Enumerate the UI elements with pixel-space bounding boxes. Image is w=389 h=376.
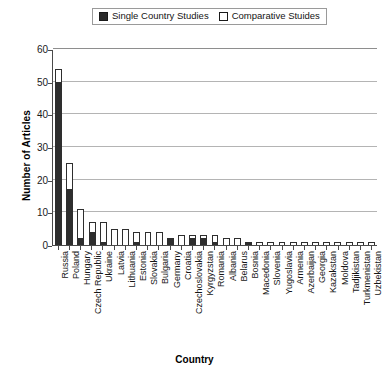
- bar-segment-comparative[interactable]: [156, 232, 163, 245]
- bar-segment-comparative[interactable]: [145, 232, 152, 245]
- bar-stack[interactable]: [223, 238, 230, 245]
- bar-stack[interactable]: [346, 242, 353, 245]
- bar-segment-comparative[interactable]: [66, 163, 73, 189]
- bar-segment-single-country[interactable]: [89, 232, 96, 245]
- bar-segment-comparative[interactable]: [290, 242, 297, 245]
- bar-slot[interactable]: [310, 50, 321, 245]
- bar-segment-comparative[interactable]: [89, 222, 96, 232]
- bar-stack[interactable]: [178, 235, 185, 245]
- bar-segment-comparative[interactable]: [346, 242, 353, 245]
- bar-slot[interactable]: [276, 50, 287, 245]
- bar-segment-comparative[interactable]: [122, 229, 129, 245]
- bar-segment-comparative[interactable]: [279, 242, 286, 245]
- bar-segment-single-country[interactable]: [133, 242, 140, 245]
- bar-slot[interactable]: [176, 50, 187, 245]
- bar-series-group: [53, 50, 377, 245]
- bar-segment-comparative[interactable]: [334, 242, 341, 245]
- bar-slot[interactable]: [288, 50, 299, 245]
- bar-slot[interactable]: [254, 50, 265, 245]
- bar-stack[interactable]: [267, 242, 274, 245]
- x-label-slot: Slovakia: [142, 251, 153, 351]
- bar-segment-comparative[interactable]: [256, 242, 263, 245]
- bar-slot[interactable]: [332, 50, 343, 245]
- bar-slot[interactable]: [154, 50, 165, 245]
- bar-slot[interactable]: [366, 50, 377, 245]
- x-label-slot: Russia: [52, 251, 63, 351]
- bar-segment-single-country[interactable]: [77, 238, 84, 245]
- bar-stack[interactable]: [212, 235, 219, 245]
- bar-segment-comparative[interactable]: [223, 238, 230, 245]
- bar-slot[interactable]: [299, 50, 310, 245]
- y-tick-mark-20: [48, 181, 52, 182]
- bar-segment-comparative[interactable]: [234, 238, 241, 245]
- bar-stack[interactable]: [122, 229, 129, 245]
- bar-slot[interactable]: [64, 50, 75, 245]
- x-tick-mark: [237, 246, 238, 250]
- bar-stack[interactable]: [66, 163, 73, 245]
- bar-segment-single-country[interactable]: [189, 238, 196, 245]
- bar-stack[interactable]: [200, 235, 207, 245]
- bar-segment-single-country[interactable]: [212, 242, 219, 245]
- bar-slot[interactable]: [142, 50, 153, 245]
- bar-slot[interactable]: [321, 50, 332, 245]
- bar-stack[interactable]: [145, 232, 152, 245]
- bar-segment-comparative[interactable]: [77, 209, 84, 238]
- bar-segment-comparative[interactable]: [133, 232, 140, 242]
- bar-stack[interactable]: [89, 222, 96, 245]
- bar-slot[interactable]: [165, 50, 176, 245]
- bar-segment-comparative[interactable]: [323, 242, 330, 245]
- bar-stack[interactable]: [189, 235, 196, 245]
- bar-segment-comparative[interactable]: [312, 242, 319, 245]
- bar-stack[interactable]: [245, 242, 252, 245]
- bar-segment-comparative[interactable]: [111, 229, 118, 245]
- bar-slot[interactable]: [355, 50, 366, 245]
- bar-segment-single-country[interactable]: [66, 189, 73, 245]
- bar-segment-single-country[interactable]: [167, 238, 174, 245]
- bar-stack[interactable]: [156, 232, 163, 245]
- bar-slot[interactable]: [243, 50, 254, 245]
- bar-segment-single-country[interactable]: [200, 238, 207, 245]
- bar-stack[interactable]: [357, 242, 364, 245]
- bar-stack[interactable]: [368, 242, 375, 245]
- bar-stack[interactable]: [167, 238, 174, 245]
- bar-slot[interactable]: [75, 50, 86, 245]
- bar-segment-comparative[interactable]: [55, 69, 62, 82]
- bar-stack[interactable]: [301, 242, 308, 245]
- bar-segment-comparative[interactable]: [178, 235, 185, 245]
- bar-slot[interactable]: [53, 50, 64, 245]
- bar-stack[interactable]: [111, 229, 118, 245]
- bar-segment-single-country[interactable]: [245, 242, 252, 245]
- bar-stack[interactable]: [55, 69, 62, 245]
- bar-segment-comparative[interactable]: [267, 242, 274, 245]
- bar-slot[interactable]: [209, 50, 220, 245]
- bar-stack[interactable]: [77, 209, 84, 245]
- bar-slot[interactable]: [109, 50, 120, 245]
- bar-segment-comparative[interactable]: [357, 242, 364, 245]
- bar-segment-single-country[interactable]: [100, 242, 107, 245]
- bar-stack[interactable]: [334, 242, 341, 245]
- bar-slot[interactable]: [120, 50, 131, 245]
- bar-segment-comparative[interactable]: [368, 242, 375, 245]
- bar-stack[interactable]: [234, 238, 241, 245]
- bar-slot[interactable]: [187, 50, 198, 245]
- bar-slot[interactable]: [265, 50, 276, 245]
- bar-slot[interactable]: [131, 50, 142, 245]
- bar-segment-single-country[interactable]: [55, 82, 62, 245]
- bar-stack[interactable]: [323, 242, 330, 245]
- bar-slot[interactable]: [198, 50, 209, 245]
- bar-stack[interactable]: [312, 242, 319, 245]
- bar-slot[interactable]: [98, 50, 109, 245]
- bar-slot[interactable]: [221, 50, 232, 245]
- bar-segment-comparative[interactable]: [100, 222, 107, 242]
- bar-slot[interactable]: [87, 50, 98, 245]
- bar-stack[interactable]: [256, 242, 263, 245]
- bar-stack[interactable]: [133, 232, 140, 245]
- bar-stack[interactable]: [100, 222, 107, 245]
- bar-stack[interactable]: [290, 242, 297, 245]
- bar-slot[interactable]: [232, 50, 243, 245]
- bar-stack[interactable]: [279, 242, 286, 245]
- x-label-slot: Uzbekistan: [366, 251, 377, 351]
- bar-slot[interactable]: [343, 50, 354, 245]
- bar-segment-comparative[interactable]: [301, 242, 308, 245]
- legend-swatch-filled-square-icon: [99, 12, 108, 21]
